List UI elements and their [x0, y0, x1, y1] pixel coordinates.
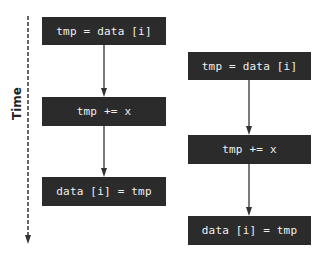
thread-a-step-3: data [i] = tmp — [42, 177, 166, 206]
thread-b-step-1: tmp = data [i] — [188, 52, 311, 80]
time-axis-arrowhead — [25, 235, 31, 244]
arrowhead-a-1 — [101, 88, 107, 97]
thread-a-step-2: tmp += x — [42, 97, 166, 126]
arrowhead-a-2 — [101, 168, 107, 177]
time-axis-label: Time — [10, 90, 24, 120]
thread-b-step-2: tmp += x — [188, 135, 311, 164]
thread-a-step-1: tmp = data [i] — [42, 17, 166, 45]
arrowhead-b-2 — [246, 207, 252, 216]
arrowhead-b-1 — [246, 126, 252, 135]
thread-b-step-3: data [i] = tmp — [188, 216, 311, 245]
